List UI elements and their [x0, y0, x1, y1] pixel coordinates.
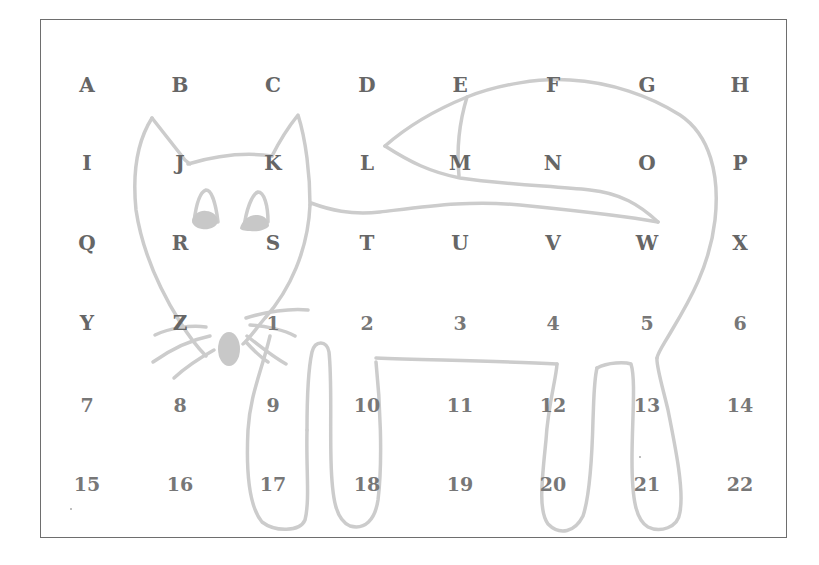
grid-label: Z	[150, 311, 210, 335]
paper-speck	[639, 456, 641, 458]
grid-label: K	[243, 151, 303, 175]
cat-belly	[376, 358, 557, 364]
grid-number: 6	[710, 311, 770, 335]
grid-number: 20	[523, 472, 583, 496]
cat-back-leg-right	[597, 358, 681, 529]
grid-number: 18	[337, 472, 397, 496]
grid-number: 21	[617, 472, 677, 496]
grid-label: Y	[57, 311, 117, 335]
paper-speck	[70, 508, 72, 510]
grid-number: 22	[710, 472, 770, 496]
grid-number: 10	[337, 393, 397, 417]
grid-number: 12	[523, 393, 583, 417]
grid-number: 3	[430, 311, 490, 335]
cat-whisker	[174, 350, 214, 378]
grid-label: V	[523, 231, 583, 255]
grid-number: 4	[523, 311, 583, 335]
grid-label: F	[523, 73, 583, 97]
grid-number: 14	[710, 393, 770, 417]
cat-front-leg-left	[247, 336, 307, 529]
cat-nose	[218, 332, 240, 366]
grid-number: 1	[243, 311, 303, 335]
grid-label: M	[430, 151, 490, 175]
grid-label: D	[337, 73, 397, 97]
grid-number: 13	[617, 393, 677, 417]
grid-label: Q	[57, 231, 117, 255]
grid-label: C	[243, 73, 303, 97]
grid-label: J	[150, 151, 210, 175]
grid-label: G	[617, 73, 677, 97]
grid-label: L	[337, 151, 397, 175]
grid-number: 11	[430, 393, 490, 417]
grid-number: 16	[150, 472, 210, 496]
grid-number: 17	[243, 472, 303, 496]
grid-label: E	[430, 73, 490, 97]
grid-label: R	[150, 231, 210, 255]
grid-label: S	[243, 231, 303, 255]
grid-number: 9	[243, 393, 303, 417]
grid-label: X	[710, 231, 770, 255]
grid-label: N	[523, 151, 583, 175]
grid-number: 2	[337, 311, 397, 335]
grid-label: P	[710, 151, 770, 175]
grid-label: A	[57, 73, 117, 97]
grid-label: T	[337, 231, 397, 255]
cat-front-leg-right	[307, 343, 381, 527]
grid-label: U	[430, 231, 490, 255]
grid-label: H	[710, 73, 770, 97]
cat-back	[311, 203, 658, 222]
cat-drawing	[0, 0, 819, 565]
grid-label: W	[617, 231, 677, 255]
cat-back-leg-left	[542, 364, 597, 531]
grid-number: 15	[57, 472, 117, 496]
grid-number: 8	[150, 393, 210, 417]
grid-label: O	[617, 151, 677, 175]
grid-number: 7	[57, 393, 117, 417]
grid-label: B	[150, 73, 210, 97]
grid-number: 5	[617, 311, 677, 335]
grid-number: 19	[430, 472, 490, 496]
grid-label: I	[57, 151, 117, 175]
